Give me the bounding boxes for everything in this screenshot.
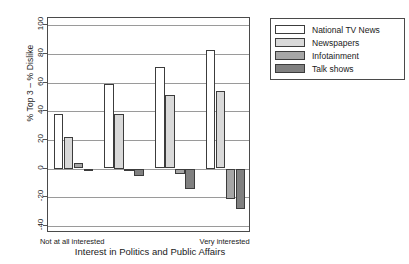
x-tick-label: Not at all interested	[40, 237, 105, 246]
legend-item: National TV News	[275, 23, 399, 36]
y-tick-label: 60	[36, 68, 45, 94]
legend-label: Infotainment	[312, 51, 359, 61]
gridline	[48, 54, 249, 55]
bar	[84, 169, 94, 171]
bar	[54, 114, 64, 169]
bar	[216, 91, 226, 168]
gridline	[48, 197, 249, 198]
bar	[236, 169, 246, 209]
bar-chart-figure: % Top 3 – % Dislike -40-20020406080100 N…	[0, 0, 409, 264]
legend: National TV NewsNewspapersInfotainmentTa…	[270, 18, 405, 80]
y-tick-label: 40	[36, 97, 45, 123]
bar	[124, 169, 134, 172]
legend-swatch	[275, 64, 305, 73]
bar	[175, 169, 185, 175]
y-tick-label: 0	[36, 154, 45, 180]
legend-item: Talk shows	[275, 62, 399, 75]
y-axis-title: % Top 3 – % Dislike	[25, 8, 35, 158]
legend-swatch	[275, 38, 305, 47]
bar	[165, 95, 175, 168]
bar	[185, 169, 195, 189]
bar	[155, 67, 165, 169]
bar	[104, 84, 114, 169]
bar	[114, 114, 124, 169]
y-tick-label: -40	[36, 211, 45, 237]
bar	[74, 163, 84, 169]
legend-item: Newspapers	[275, 36, 399, 49]
y-tick-label: -20	[36, 183, 45, 209]
gridline	[48, 169, 249, 170]
plot-area	[47, 17, 250, 232]
bar	[206, 50, 216, 169]
legend-label: Newspapers	[312, 38, 359, 48]
legend-item: Infotainment	[275, 49, 399, 62]
gridline	[48, 226, 249, 227]
bar	[64, 137, 74, 169]
legend-label: National TV News	[312, 25, 380, 35]
gridline	[48, 25, 249, 26]
legend-label: Talk shows	[312, 64, 354, 74]
y-tick-label: 20	[36, 125, 45, 151]
y-tick-label: 100	[36, 11, 45, 37]
x-axis-title: Interest in Politics and Public Affairs	[0, 246, 300, 257]
x-tick-label: Very interested	[200, 237, 250, 246]
bar	[226, 169, 236, 199]
legend-swatch	[275, 25, 305, 34]
gridline	[48, 83, 249, 84]
bar	[134, 169, 144, 176]
y-tick-label: 80	[36, 39, 45, 65]
legend-swatch	[275, 51, 305, 60]
